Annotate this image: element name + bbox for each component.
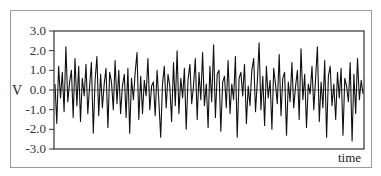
y-tick-label: -1.0 — [6, 103, 46, 116]
signal-line — [55, 43, 363, 141]
chart-plot — [0, 0, 381, 176]
x-axis-label: time — [338, 150, 361, 166]
y-axis-label: V — [12, 83, 22, 99]
y-tick-label: 1.0 — [6, 63, 46, 76]
y-tick-label: 3.0 — [6, 24, 46, 37]
y-tick-label: 2.0 — [6, 44, 46, 57]
y-axis-ticks — [49, 31, 54, 149]
y-tick-label: -2.0 — [6, 122, 46, 135]
y-tick-label: -3.0 — [6, 142, 46, 155]
